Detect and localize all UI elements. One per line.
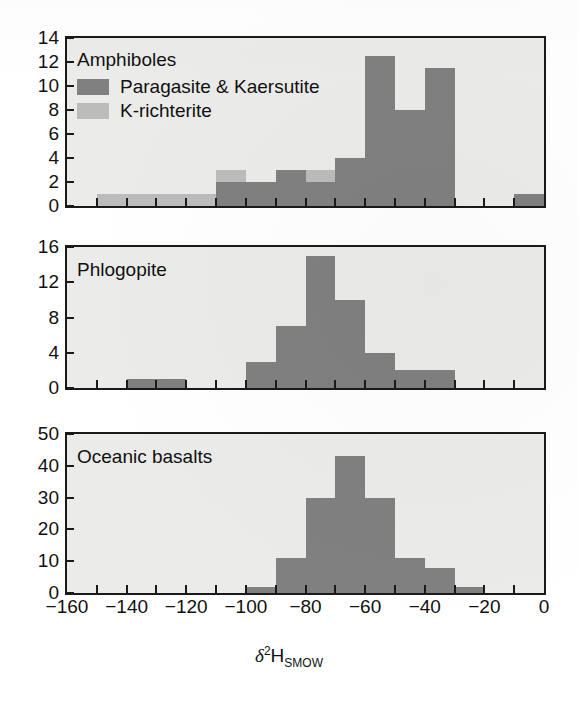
x-axis-tick xyxy=(275,585,277,593)
x-axis-tick xyxy=(305,380,307,388)
y-axis-label: 14 xyxy=(7,28,59,47)
histogram-bar xyxy=(395,558,425,593)
x-axis-tick xyxy=(394,380,396,388)
x-axis-tick xyxy=(185,585,187,593)
histogram-bar xyxy=(306,498,336,593)
x-axis-tick xyxy=(215,198,217,206)
x-axis-tick xyxy=(454,380,456,388)
x-axis-tick xyxy=(185,380,187,388)
histogram-bar xyxy=(335,456,365,593)
y-axis-tick xyxy=(67,181,74,183)
histogram-bar xyxy=(216,182,246,206)
x-axis-tick xyxy=(424,198,426,206)
x-axis-tick xyxy=(364,585,366,593)
histogram-bar xyxy=(425,568,455,593)
y-axis-tick xyxy=(67,528,74,530)
y-axis-label: 10 xyxy=(7,551,59,570)
y-axis-label: 10 xyxy=(7,76,59,95)
legend-swatch-dark-icon xyxy=(77,79,109,95)
y-axis-label: 50 xyxy=(7,424,59,443)
legend-label-k-richterite: K-richterite xyxy=(120,101,212,120)
histogram-bar xyxy=(186,194,216,206)
x-axis-tick xyxy=(96,198,98,206)
x-axis-title: δ2HSMOW xyxy=(0,641,578,674)
histogram-bar xyxy=(306,170,336,182)
y-axis-label: 0 xyxy=(7,378,59,397)
y-axis-tick xyxy=(67,465,74,467)
x-axis-title-subscript: SMOW xyxy=(284,656,323,670)
y-axis-tick xyxy=(67,205,74,207)
y-axis-tick xyxy=(67,246,74,248)
x-axis-tick xyxy=(334,198,336,206)
y-axis-label: 8 xyxy=(7,100,59,119)
x-axis-tick xyxy=(364,380,366,388)
x-axis-tick xyxy=(245,380,247,388)
panel-phlogopite: Phlogopite 0481216 xyxy=(0,225,578,410)
x-axis-tick xyxy=(483,585,485,593)
x-axis-tick xyxy=(513,380,515,388)
x-axis-tick xyxy=(126,585,128,593)
histogram-bar xyxy=(514,194,544,206)
panel-title-amphiboles: Amphiboles xyxy=(77,50,176,70)
panel-title-phlogopite: Phlogopite xyxy=(77,260,167,280)
y-axis-tick xyxy=(67,133,74,135)
x-axis-tick xyxy=(126,380,128,388)
histogram-bar xyxy=(246,587,276,593)
x-axis-tick xyxy=(185,198,187,206)
histogram-bar xyxy=(395,110,425,206)
histogram-bar xyxy=(127,194,157,206)
x-axis-tick xyxy=(454,198,456,206)
y-axis-tick xyxy=(67,433,74,435)
legend-item-k-richterite: K-richterite xyxy=(77,102,320,119)
histogram-bar xyxy=(276,558,306,593)
histogram-bar xyxy=(306,182,336,206)
histogram-bar xyxy=(455,587,485,593)
legend-amphiboles: Paragasite & Kaersutite K-richterite xyxy=(77,78,320,126)
histogram-bar xyxy=(395,370,425,388)
panel-amphiboles: Amphiboles Paragasite & Kaersutite K-ric… xyxy=(0,0,578,225)
x-axis-tick xyxy=(334,380,336,388)
histogram-bar xyxy=(306,256,336,388)
y-axis-tick xyxy=(67,497,74,499)
legend-label-paragasite-kaersutite: Paragasite & Kaersutite xyxy=(120,77,320,96)
y-axis-label: 4 xyxy=(7,343,59,362)
x-axis-tick xyxy=(275,198,277,206)
x-axis-tick xyxy=(424,380,426,388)
y-axis-label: 40 xyxy=(7,456,59,475)
x-axis-tick xyxy=(394,585,396,593)
x-axis-tick xyxy=(155,198,157,206)
y-axis-label: 30 xyxy=(7,488,59,507)
y-axis-label: 4 xyxy=(7,148,59,167)
histogram-figure: Amphiboles Paragasite & Kaersutite K-ric… xyxy=(0,0,578,708)
x-axis-tick xyxy=(305,585,307,593)
histogram-bar xyxy=(156,379,186,388)
histogram-bar xyxy=(365,56,395,206)
histogram-bar xyxy=(425,370,455,388)
y-axis-tick xyxy=(67,592,74,594)
x-axis-tick xyxy=(215,380,217,388)
legend-item-paragasite-kaersutite: Paragasite & Kaersutite xyxy=(77,78,320,95)
y-axis-tick xyxy=(67,352,74,354)
x-axis-tick xyxy=(155,380,157,388)
x-axis-tick xyxy=(483,380,485,388)
y-axis-label: 0 xyxy=(7,196,59,215)
y-axis-label: 2 xyxy=(7,172,59,191)
x-axis-tick xyxy=(364,198,366,206)
y-axis-tick xyxy=(67,37,74,39)
histogram-bar xyxy=(127,379,157,388)
y-axis-tick xyxy=(67,560,74,562)
y-axis-label: 6 xyxy=(7,124,59,143)
x-axis-tick xyxy=(215,585,217,593)
x-axis-tick xyxy=(155,585,157,593)
y-axis-label: 12 xyxy=(7,272,59,291)
x-axis-tick xyxy=(454,585,456,593)
x-axis-tick xyxy=(424,585,426,593)
x-axis-tick xyxy=(275,380,277,388)
x-axis-tick xyxy=(126,198,128,206)
x-axis-tick-label: 0 xyxy=(504,597,578,616)
x-axis-tick xyxy=(513,585,515,593)
x-axis-tick xyxy=(96,585,98,593)
x-axis-tick xyxy=(245,585,247,593)
y-axis-tick xyxy=(67,157,74,159)
y-axis-tick xyxy=(67,281,74,283)
